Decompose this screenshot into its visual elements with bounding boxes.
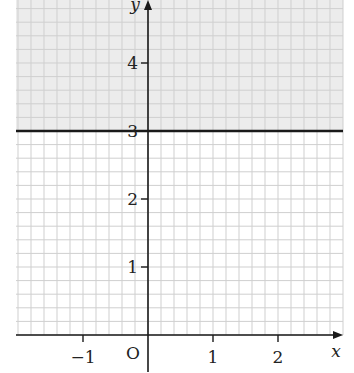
x-tick-label: 1: [208, 347, 219, 367]
y-axis-label: y: [129, 0, 140, 14]
x-tick-label: 2: [273, 347, 284, 367]
shaded-region: [16, 0, 343, 131]
y-tick-label: 4: [127, 53, 138, 73]
y-tick-label: 2: [127, 189, 138, 209]
y-tick-label: 1: [127, 257, 138, 277]
origin-label: O: [126, 343, 140, 363]
graph: −1121234Oxy: [0, 0, 354, 373]
x-axis-label: x: [331, 341, 341, 361]
x-axis-arrow-icon: [333, 331, 343, 339]
y-tick-label: 3: [127, 121, 138, 141]
x-tick-label: −1: [70, 347, 95, 367]
